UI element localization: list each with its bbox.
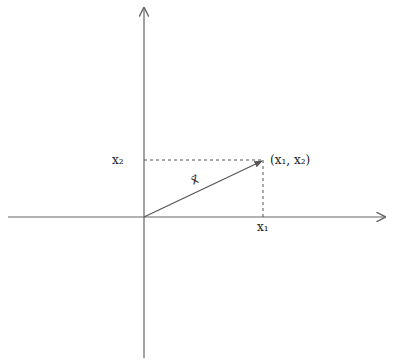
- point-label: (x₁, x₂): [270, 153, 310, 167]
- vector-diagram: x₂ x₁ (x₁, x₂) x⃗: [0, 0, 393, 362]
- x1-axis-label: x₁: [257, 220, 269, 234]
- vector-arrow: [144, 161, 262, 217]
- x2-axis-label: x₂: [112, 153, 124, 167]
- vector-label: x⃗: [189, 172, 201, 188]
